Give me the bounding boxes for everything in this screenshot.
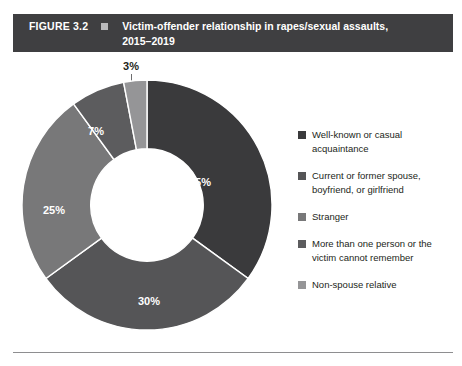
legend-swatch-icon bbox=[298, 172, 306, 180]
slice-value-label: 25% bbox=[43, 204, 65, 216]
legend-swatch-icon bbox=[298, 131, 306, 139]
legend-swatch-icon bbox=[298, 213, 306, 221]
figure-title: Victim-offender relationship in rapes/se… bbox=[122, 19, 388, 48]
legend-item-stranger[interactable]: Stranger bbox=[298, 210, 458, 224]
legend-item-current-former-partner[interactable]: Current or former spouse, boyfriend, or … bbox=[298, 169, 458, 197]
legend-swatch-icon bbox=[298, 281, 306, 289]
donut-svg: 35%30%25%7% bbox=[22, 80, 272, 330]
slice-value-label: 35% bbox=[189, 176, 211, 188]
slice-value-label: 30% bbox=[138, 295, 160, 307]
legend-item-well-known-acquaintance[interactable]: Well-known or casual acquaintance bbox=[298, 128, 458, 156]
legend-item-label: More than one person or the victim canno… bbox=[312, 237, 458, 265]
legend-item-non-spouse-relative[interactable]: Non-spouse relative bbox=[298, 278, 458, 292]
figure-title-line-2: 2015–2019 bbox=[122, 34, 388, 49]
donut-chart: 3% 35%30%25%7% bbox=[0, 52, 300, 342]
legend-item-label: Well-known or casual acquaintance bbox=[312, 128, 458, 156]
callout-label: 3% bbox=[104, 60, 158, 72]
legend-item-more-than-one-person[interactable]: More than one person or the victim canno… bbox=[298, 237, 458, 265]
legend-item-label: Non-spouse relative bbox=[312, 278, 397, 292]
figure-number: FIGURE 3.2 bbox=[29, 19, 88, 33]
chart-legend: Well-known or casual acquaintance Curren… bbox=[298, 128, 458, 305]
legend-item-label: Stranger bbox=[312, 210, 348, 224]
legend-swatch-icon bbox=[298, 240, 306, 248]
figure-title-line-1: Victim-offender relationship in rapes/se… bbox=[122, 20, 388, 32]
donut-graphic: 35%30%25%7% bbox=[22, 80, 272, 330]
figure-header-bar: FIGURE 3.2 Victim-offender relationship … bbox=[13, 14, 453, 52]
figure-bottom-rule bbox=[13, 352, 453, 353]
legend-item-label: Current or former spouse, boyfriend, or … bbox=[312, 169, 458, 197]
slice-value-label: 7% bbox=[88, 125, 104, 137]
header-bullet-icon bbox=[101, 23, 108, 30]
